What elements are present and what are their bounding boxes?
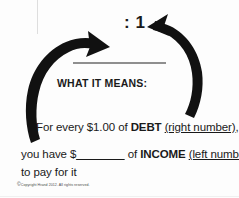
- ratio-label: : 1: [124, 14, 145, 31]
- pay-for-it-line: to pay for it: [21, 166, 77, 178]
- income-line-middle: of: [125, 148, 141, 160]
- income-explanation-line: you have $_______ of INCOME (left number…: [21, 148, 239, 160]
- right-curved-arrow: [147, 14, 203, 118]
- copyright-notice: ©Copyright Hrand 2012. All rights reserv…: [17, 181, 90, 187]
- diagram-canvas: : 1 WHAT IT MEANS: For every $1.00 of DE…: [0, 0, 239, 198]
- income-keyword: INCOME: [140, 148, 185, 160]
- ratio-blank-line: [73, 62, 166, 64]
- copyright-text: Copyright Hrand 2012. All rights reserve…: [21, 183, 90, 187]
- income-annotation: (left number): [189, 148, 239, 160]
- income-line-prefix: you have $: [21, 148, 76, 160]
- debt-keyword: DEBT: [131, 121, 162, 133]
- debt-line-suffix: ,: [235, 121, 238, 133]
- debt-line-prefix: For every $1.00 of: [36, 121, 131, 133]
- debt-explanation-line: For every $1.00 of DEBT (right number),: [36, 121, 239, 133]
- what-it-means-heading: WHAT IT MEANS:: [57, 77, 147, 89]
- debt-annotation: (right number): [165, 121, 236, 133]
- income-fill-blank: _______: [76, 148, 124, 160]
